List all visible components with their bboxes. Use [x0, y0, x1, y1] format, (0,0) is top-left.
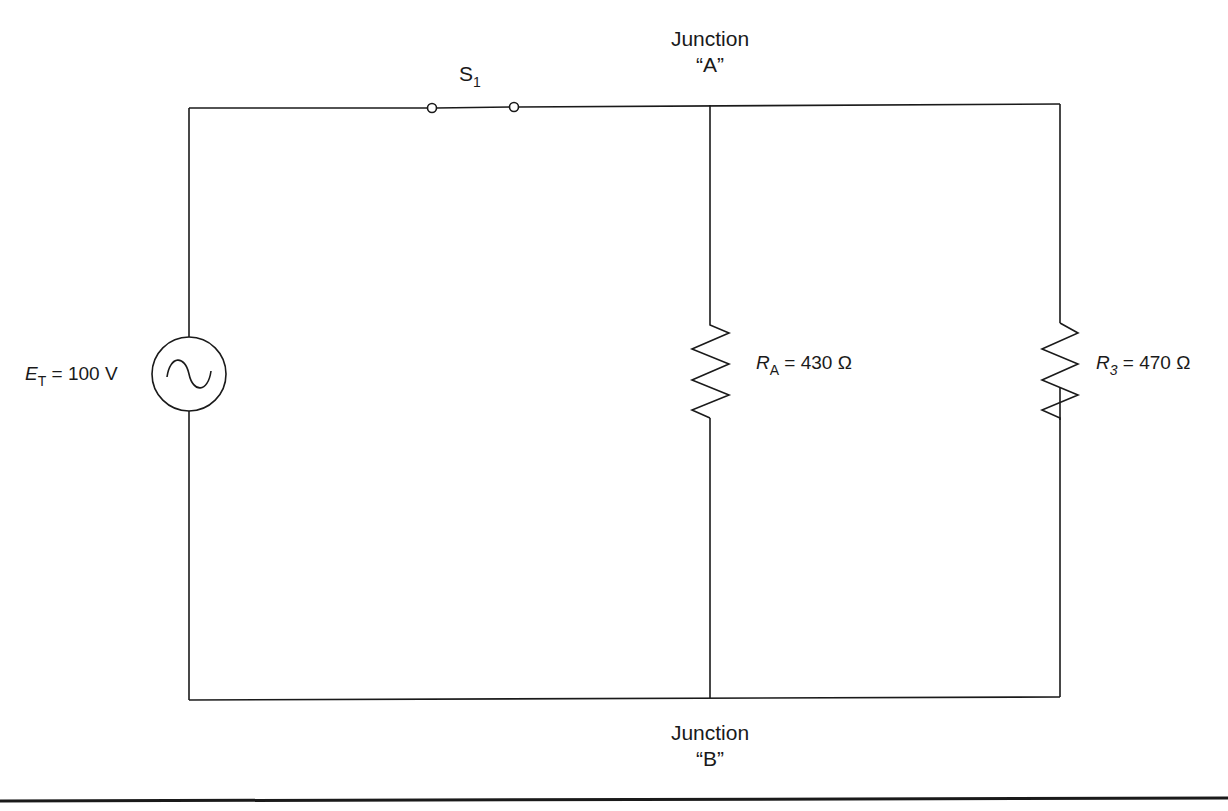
switch-blade — [436, 107, 510, 108]
bottom-wire — [189, 697, 1060, 700]
resistor-a-label-subscript: A — [770, 362, 779, 378]
resistor-a-icon — [692, 324, 729, 418]
switch-label-subscript: 1 — [473, 74, 481, 90]
junction-a-line1: Junction — [610, 26, 810, 52]
switch-label: S1 — [459, 63, 481, 84]
junction-b-line2: “B” — [610, 746, 810, 772]
circuit-diagram — [0, 0, 1228, 811]
junction-b-line1: Junction — [610, 720, 810, 746]
page-rule — [0, 798, 1228, 801]
source-label-symbol: E — [25, 363, 38, 384]
junction-b-label: Junction “B” — [610, 720, 810, 772]
source-label: ET = 100 V — [25, 364, 118, 383]
resistor-3-label: R3 = 470 Ω — [1096, 353, 1190, 372]
resistor-3-label-symbol: R — [1096, 352, 1110, 373]
switch-label-symbol: S — [459, 62, 473, 85]
source-label-value: = 100 V — [46, 363, 117, 384]
junction-a-label: Junction “A” — [610, 26, 810, 78]
resistor-a-label: RA = 430 Ω — [756, 353, 852, 372]
sine-wave-icon — [167, 360, 211, 388]
top-wire-right — [518, 104, 1060, 107]
switch-contact-right — [510, 103, 519, 112]
source-label-subscript: T — [38, 373, 47, 389]
switch-contact-left — [428, 104, 437, 113]
resistor-a-label-symbol: R — [756, 352, 770, 373]
resistor-3-label-value: = 470 Ω — [1118, 352, 1191, 373]
resistor-a-label-value: = 430 Ω — [779, 352, 852, 373]
resistor-3-label-subscript: 3 — [1110, 362, 1118, 378]
junction-a-line2: “A” — [610, 52, 810, 78]
